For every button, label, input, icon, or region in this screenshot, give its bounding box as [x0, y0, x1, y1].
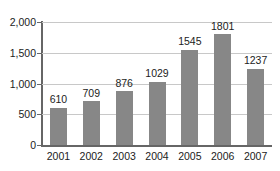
y-axis-labels: 05001,0001,5002,000: [0, 0, 36, 171]
bar: [83, 101, 100, 145]
x-axis-labels: 2001200220032004200520062007: [42, 149, 272, 167]
bar-slot: 876: [116, 22, 133, 145]
x-axis-tick-label: 2001: [47, 151, 70, 162]
y-axis-tick-label: 500: [2, 109, 36, 120]
bar-slot: 709: [83, 22, 100, 145]
bar: [50, 108, 67, 146]
bar-value-label: 876: [115, 78, 133, 89]
x-axis-tick-label: 2003: [112, 151, 135, 162]
bar-value-label: 1237: [244, 55, 267, 66]
bar-value-label: 610: [50, 94, 68, 105]
bar-value-label: 1801: [211, 21, 234, 32]
bar: [247, 69, 264, 145]
y-axis-tick-label: 2,000: [2, 17, 36, 28]
y-axis-tick-label: 0: [2, 140, 36, 151]
y-axis-tick-label: 1,500: [2, 48, 36, 59]
x-axis-tick-label: 2005: [178, 151, 201, 162]
bar-slot: 1545: [181, 22, 198, 145]
x-axis-tick-label: 2002: [80, 151, 103, 162]
x-axis-tick-label: 2007: [244, 151, 267, 162]
bar-value-label: 1545: [178, 36, 201, 47]
x-axis-tick-label: 2006: [211, 151, 234, 162]
bar: [214, 34, 231, 145]
bar-slot: 610: [50, 22, 67, 145]
bar: [149, 82, 166, 145]
y-axis-tick-label: 1,000: [2, 78, 36, 89]
bar-slot: 1237: [247, 22, 264, 145]
bar-chart: 05001,0001,5002,000 61070987610291545180…: [0, 0, 280, 171]
bar: [116, 91, 133, 145]
plot-area: 6107098761029154518011237: [42, 22, 272, 145]
bar-value-label: 1029: [145, 68, 168, 79]
bar-value-label: 709: [83, 88, 101, 99]
x-axis-line: [41, 145, 272, 147]
bar-slot: 1029: [149, 22, 166, 145]
bar-slot: 1801: [214, 22, 231, 145]
x-axis-tick-label: 2004: [145, 151, 168, 162]
bar: [181, 50, 198, 145]
